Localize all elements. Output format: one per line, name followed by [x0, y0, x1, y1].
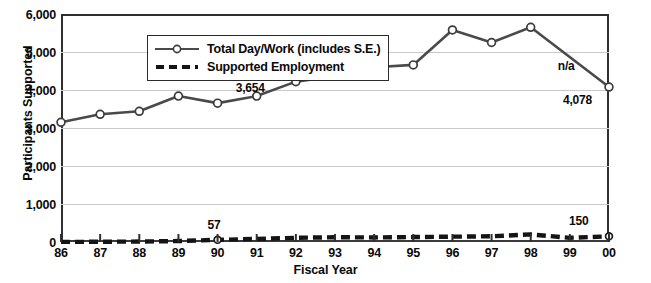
x-axis-tick-labels: 868788899091929394959697989900	[61, 0, 609, 283]
x-tick-94: 94	[354, 246, 394, 260]
x-tick-88: 88	[119, 246, 159, 260]
x-tick-99: 99	[550, 246, 590, 260]
x-tick-87: 87	[80, 246, 120, 260]
x-tick-98: 98	[511, 246, 551, 260]
chart-figure: Participants Supported 6,000 5,000 4,000…	[0, 0, 651, 283]
x-tick-89: 89	[158, 246, 198, 260]
y-tick-3000: 3,000	[10, 122, 56, 136]
y-tick-2000: 2,000	[10, 160, 56, 174]
x-tick-86: 86	[41, 246, 81, 260]
x-tick-93: 93	[315, 246, 355, 260]
y-tick-6000: 6,000	[10, 8, 56, 22]
x-tick-00: 00	[589, 246, 629, 260]
y-tick-1000: 1,000	[10, 198, 56, 212]
x-tick-91: 91	[237, 246, 277, 260]
y-tick-4000: 4,000	[10, 84, 56, 98]
x-tick-92: 92	[276, 246, 316, 260]
x-tick-96: 96	[432, 246, 472, 260]
x-tick-97: 97	[472, 246, 512, 260]
y-tick-5000: 5,000	[10, 46, 56, 60]
x-tick-90: 90	[198, 246, 238, 260]
x-axis-title: Fiscal Year	[0, 263, 651, 277]
x-tick-95: 95	[393, 246, 433, 260]
y-axis-tick-labels: 6,000 5,000 4,000 3,000 2,000 1,000 0	[6, 0, 56, 283]
